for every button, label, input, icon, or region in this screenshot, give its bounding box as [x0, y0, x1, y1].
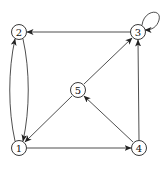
node-3-label: 3 [135, 27, 141, 38]
node-5: 5 [71, 83, 86, 98]
edge-2-to-1 [23, 39, 28, 141]
edge-4-to-3 [138, 40, 139, 140]
edge-3-to-3-self-loop [142, 12, 159, 30]
node-1-label: 1 [16, 143, 22, 154]
edge-5-to-1 [25, 96, 72, 142]
node-3: 3 [131, 25, 146, 40]
node-2: 2 [12, 25, 27, 40]
node-4: 4 [132, 141, 147, 156]
edge-1-to-2 [10, 39, 15, 141]
node-5-label: 5 [75, 85, 81, 96]
edge-4-to-5 [84, 96, 133, 142]
node-2-label: 2 [16, 27, 22, 38]
node-4-label: 4 [136, 143, 142, 154]
graph-canvas: 1 2 3 4 5 [0, 0, 166, 170]
node-1: 1 [12, 141, 27, 156]
edge-5-to-3 [84, 38, 132, 84]
